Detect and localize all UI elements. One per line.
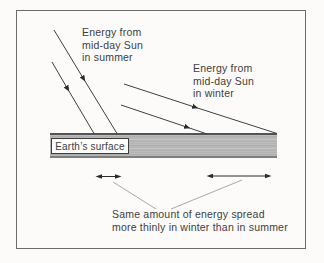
winter-energy-label-line3: in winter: [193, 87, 254, 100]
leader-line-right: [171, 180, 242, 209]
diagram-canvas: Earth’s surface Energy from: [0, 0, 324, 263]
summer-energy-label-line2: mid-day Sun: [82, 39, 143, 52]
summer-energy-label-line1: Energy from: [82, 26, 143, 39]
winter-energy-label-line2: mid-day Sun: [193, 75, 254, 88]
summer-energy-label: Energy from mid-day Sun in summer: [82, 26, 143, 64]
caption-line2: more thinly in winter than in summer: [112, 221, 288, 234]
winter-footprint-arrow: [207, 174, 272, 178]
caption: Same amount of energy spread more thinly…: [112, 208, 288, 234]
summer-energy-label-line3: in summer: [82, 51, 143, 64]
leader-line-left: [113, 182, 156, 209]
winter-ray-bottom: [121, 105, 207, 134]
winter-energy-label: Energy from mid-day Sun in winter: [193, 62, 254, 100]
summer-ray-left: [52, 62, 94, 134]
caption-line1: Same amount of energy spread: [112, 208, 288, 221]
summer-footprint-arrow: [96, 174, 122, 178]
winter-energy-label-line1: Energy from: [193, 62, 254, 75]
